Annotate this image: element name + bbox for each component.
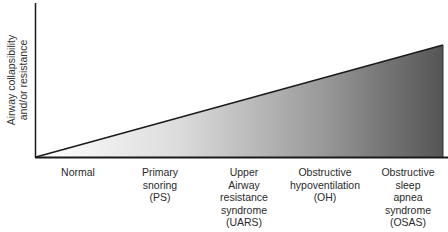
category-osas-line4: syndrome <box>363 204 448 217</box>
category-osas-line2: sleep <box>363 179 448 192</box>
category-osas-line5: (OSAS) <box>363 216 448 229</box>
category-primary-snoring: Primary snoring (PS) <box>115 166 205 204</box>
category-uars: Upper Airway resistance syndrome (UARS) <box>199 166 289 229</box>
category-ps-line1: Primary <box>115 166 205 179</box>
category-uars-line1: Upper <box>199 166 289 179</box>
category-uars-line4: syndrome <box>199 204 289 217</box>
airway-spectrum-diagram: Airway collapsibility and/or resistance … <box>0 0 448 232</box>
category-oh-line3: (OH) <box>280 191 370 204</box>
category-osas: Obstructive sleep apnea syndrome (OSAS) <box>363 166 448 229</box>
category-oh: Obstructive hypoventilation (OH) <box>280 166 370 204</box>
y-axis-label: Airway collapsibility and/or resistance <box>2 3 32 157</box>
category-uars-line3: resistance <box>199 191 289 204</box>
category-normal-line1: Normal <box>33 166 123 179</box>
category-osas-line3: apnea <box>363 191 448 204</box>
category-ps-line2: snoring <box>115 179 205 192</box>
category-normal: Normal <box>33 166 123 179</box>
category-uars-line5: (UARS) <box>199 216 289 229</box>
y-axis-label-line2: and/or resistance <box>17 35 29 125</box>
category-osas-line1: Obstructive <box>363 166 448 179</box>
category-oh-line1: Obstructive <box>280 166 370 179</box>
category-ps-line3: (PS) <box>115 191 205 204</box>
category-uars-line2: Airway <box>199 179 289 192</box>
y-axis-label-line1: Airway collapsibility <box>5 35 17 125</box>
category-oh-line2: hypoventilation <box>280 179 370 192</box>
